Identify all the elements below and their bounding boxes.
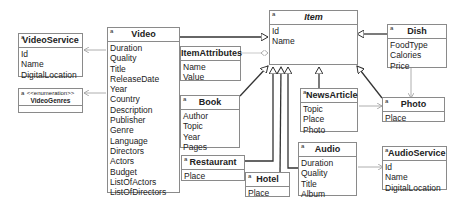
photo-item-generalization [357,66,382,98]
attribute: Description [110,105,177,115]
attribute: DigitalLocation [21,70,80,80]
class-header: aDish [388,25,446,39]
attribute-list: Duration Quality Title Album [299,157,356,200]
class-header: aAudio [299,143,356,157]
class-name: Restaurant [189,157,236,167]
class-header: aVideoService [19,34,82,48]
attribute: Publisher [110,115,177,125]
class-restaurant[interactable]: aRestaurant Place [181,155,245,181]
attribute-list: Author Topic Year Pages [181,110,239,153]
class-photo[interactable]: aPhoto Place [382,97,445,122]
class-header: aAudioService [383,147,446,161]
attribute: Topic [183,121,237,131]
class-name: VideoGenres [19,97,82,106]
class-header: aRestaurant [182,156,244,170]
attribute: Duration [110,43,177,53]
attribute: Quality [301,168,354,178]
class-name: Audio [315,144,341,154]
class-name: VideoService [22,35,78,45]
class-audioservice[interactable]: aAudioService Id Name DigitalLocation [382,146,447,190]
attribute: Title [301,179,354,189]
class-header: aBook [181,96,239,110]
class-book[interactable]: aBook Author Topic Year Pages [180,95,240,148]
book-item-generalization [240,66,268,96]
attribute: Calories [390,50,444,60]
class-name: AudioService [388,148,446,158]
attribute-list: Topic Place Photo [301,103,357,136]
attribute: Price [390,61,444,71]
class-hotel[interactable]: aHotel Place [245,172,290,197]
attribute: Photo [303,125,355,135]
attribute: ReleaseDate [110,74,177,84]
attribute: Place [248,188,287,198]
attribute: Budget [110,167,177,177]
attribute: Quality [110,53,177,63]
attribute: Genre [110,125,177,135]
attribute: Name [272,36,355,46]
attribute-list: Id Name DigitalLocation [383,161,446,194]
restaurant-item-generalization [245,67,273,161]
attribute-list: Id Name DigitalLocation [19,48,82,81]
attribute-list: Duration Quality Title ReleaseDate Year … [108,42,179,198]
class-audio[interactable]: aAudio Duration Quality Title Album [298,142,357,196]
class-header: aPhoto [383,98,444,112]
class-name: Book [199,97,222,107]
attribute: Year [183,132,237,142]
attribute-list: Place [383,112,444,124]
attribute: ListOfDirectors [110,187,177,197]
class-name: Video [131,29,155,39]
class-header: aHotel [246,173,289,187]
stereotype: a<<enumeration>> [19,89,82,97]
class-name: NewsArticle [306,90,358,100]
class-header: aItem [270,11,357,25]
attribute: Topic [303,104,355,114]
attribute: Duration [301,158,354,168]
class-name: Photo [401,99,427,109]
attribute-list: Id Name [270,25,357,48]
class-header: aNewsArticle [301,89,357,103]
attribute: Name [21,59,80,69]
attribute: Actors [110,156,177,166]
attribute: Name [183,62,238,72]
class-header: aVideo [108,28,179,42]
attribute: Pages [183,142,237,152]
class-item[interactable]: aItem Id Name [269,10,358,65]
attribute: Place [303,114,355,124]
attribute: Year [110,84,177,94]
class-name: Dish [407,26,427,36]
attribute: Value [183,72,238,82]
attribute: Id [21,49,80,59]
attribute: ListOfActors [110,177,177,187]
audio-item-generalization [288,67,298,168]
attribute: Place [385,113,442,123]
attribute-list [19,106,82,111]
attribute: Title [110,64,177,74]
hotel-item-generalization [280,67,281,174]
class-videoservice[interactable]: aVideoService Id Name DigitalLocation [18,33,83,77]
class-newsarticle[interactable]: aNewsArticle Topic Place Photo [300,88,358,132]
attribute: Author [183,111,237,121]
class-video[interactable]: aVideo Duration Quality Title ReleaseDat… [107,27,180,193]
attribute-list: Name Value [181,61,240,84]
attribute: Album [301,189,354,199]
attribute-list: FoodType Calories Price [388,39,446,72]
attribute: Country [110,94,177,104]
class-dish[interactable]: aDish FoodType Calories Price [387,24,447,68]
attribute: FoodType [390,40,444,50]
attribute: Place [184,171,242,181]
class-name: ItemAttributes [181,48,242,58]
attribute: DigitalLocation [385,183,444,193]
attribute: Name [385,172,444,182]
attribute: Id [385,162,444,172]
class-itemattributes[interactable]: ItemAttributes Name Value [180,46,241,81]
attribute-list: Place [246,187,289,199]
class-header: ItemAttributes [181,47,240,61]
attribute: Directors [110,146,177,156]
attribute: Language [110,136,177,146]
class-videogenres[interactable]: a<<enumeration>> VideoGenres [18,88,83,113]
class-name: Item [304,12,323,22]
attribute: Id [272,26,355,36]
attribute-list: Place [182,170,244,182]
class-name: Hotel [256,174,279,184]
